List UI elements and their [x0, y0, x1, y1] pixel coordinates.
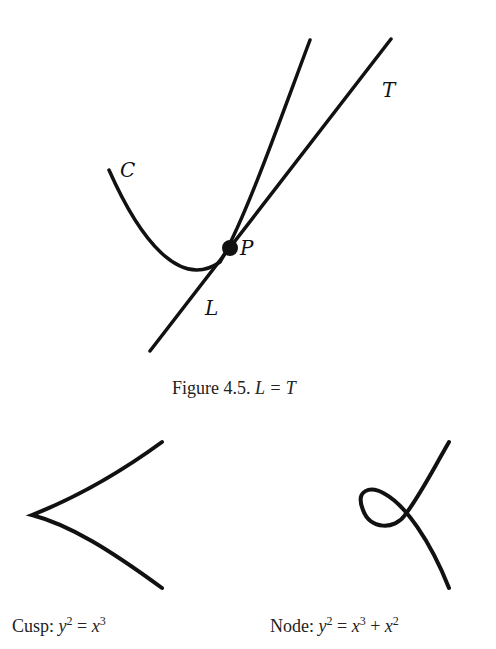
label-p: P	[240, 236, 253, 260]
node-curve	[361, 442, 449, 588]
label-c: C	[120, 158, 135, 182]
curve-c	[109, 40, 310, 270]
figure-caption: Figure 4.5. L = T	[172, 378, 296, 399]
label-t: T	[382, 78, 395, 102]
label-l: L	[205, 296, 218, 320]
cusp-curve	[32, 442, 162, 588]
tangent-line	[150, 39, 391, 351]
point-p	[222, 240, 238, 256]
node-caption: Node: y2 = x3 + x2	[270, 614, 399, 637]
figure-canvas	[0, 0, 496, 649]
cusp-caption: Cusp: y2 = x3	[12, 614, 106, 637]
